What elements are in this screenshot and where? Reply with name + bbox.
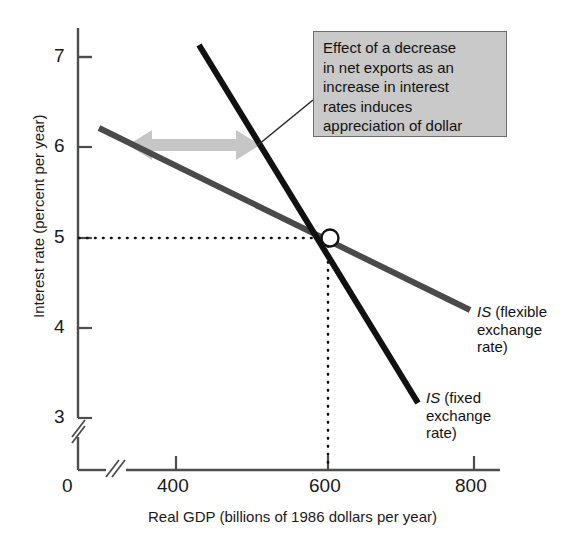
annotation-text: Effect of a decrease in net exports as a… bbox=[323, 38, 497, 136]
annotation-box: Effect of a decrease in net exports as a… bbox=[313, 31, 507, 137]
curve-label-fixed-italic: IS bbox=[426, 389, 440, 406]
equilibrium-point-marker bbox=[322, 230, 339, 247]
x-axis-ticks bbox=[176, 456, 474, 470]
x-tick-label-400: 400 bbox=[157, 475, 189, 497]
x-axis-break-icon bbox=[106, 460, 125, 477]
y-tick-label-6: 6 bbox=[54, 135, 65, 157]
y-axis-title: Interest rate (percent per year) bbox=[30, 115, 47, 318]
chart-figure: Interest rate (percent per year) Real GD… bbox=[0, 0, 574, 543]
x-tick-label-600: 600 bbox=[309, 475, 341, 497]
curve-label-flexible-italic: IS bbox=[477, 303, 491, 320]
is-curve-flexible bbox=[99, 128, 470, 310]
curve-label-fixed: IS (fixed exchange rate) bbox=[426, 389, 491, 442]
shift-arrow bbox=[128, 130, 260, 160]
y-tick-label-3: 3 bbox=[54, 406, 65, 428]
annotation-leader-line bbox=[258, 100, 313, 145]
y-tick-label-4: 4 bbox=[54, 316, 65, 338]
curve-label-flexible: IS (flexible exchange rate) bbox=[477, 303, 547, 356]
y-tick-label-5: 5 bbox=[54, 226, 65, 248]
x-tick-label-800: 800 bbox=[455, 475, 487, 497]
origin-label: 0 bbox=[62, 475, 73, 497]
y-tick-label-7: 7 bbox=[54, 45, 65, 67]
x-axis-title: Real GDP (billions of 1986 dollars per y… bbox=[148, 508, 437, 525]
